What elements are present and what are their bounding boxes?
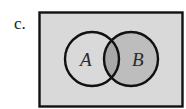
- venn-diagram: A B: [0, 0, 186, 109]
- set-b-label: B: [132, 49, 144, 70]
- set-a-label: A: [78, 49, 92, 70]
